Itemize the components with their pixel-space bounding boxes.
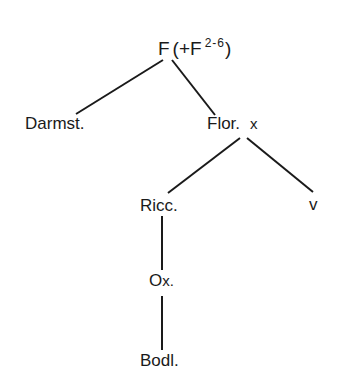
node-Flor: Flor.x xyxy=(207,115,258,132)
node-Ox: Ox. xyxy=(149,272,174,289)
edge-F-Flor xyxy=(172,60,215,115)
node-F-sup: 2-6 xyxy=(205,36,225,50)
node-Bodl: Bodl. xyxy=(140,352,179,369)
node-Darmst-label: Darmst. xyxy=(25,114,85,133)
node-F: F(+F2-6) xyxy=(158,40,231,60)
edge-Flor-Ricc xyxy=(168,138,240,193)
node-Flor-label: Flor. xyxy=(207,114,240,133)
node-Ricc: Ricc. xyxy=(140,197,178,214)
node-Darmst: Darmst. xyxy=(25,115,85,132)
node-Ricc-label: Ricc. xyxy=(140,196,178,215)
edge-F-Darmst xyxy=(76,60,163,114)
node-v-label: v xyxy=(309,195,318,214)
node-F-extra: (+F xyxy=(173,38,202,59)
node-Ox-suffix: x. xyxy=(162,272,174,289)
node-Ox-label: O xyxy=(149,271,162,290)
node-Flor-suffix: x xyxy=(250,115,258,132)
edge-Flor-v xyxy=(247,138,313,192)
node-F-close: ) xyxy=(225,38,231,59)
node-v: v xyxy=(309,196,318,213)
node-Bodl-label: Bodl. xyxy=(140,351,179,370)
node-F-label: F xyxy=(158,38,170,59)
